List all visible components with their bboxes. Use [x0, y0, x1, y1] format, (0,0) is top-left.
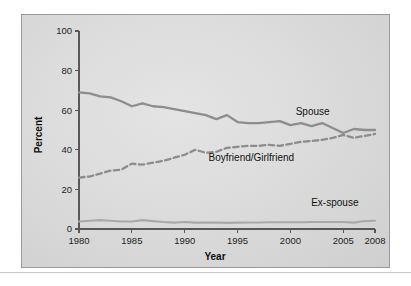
series-label-spouse: Spouse — [296, 106, 330, 117]
series-line-ex-spouse — [79, 220, 375, 223]
series-label-boyfriend-girlfriend: Boyfriend/Girlfriend — [209, 152, 295, 163]
x-tick-label: 1980 — [68, 235, 89, 246]
x-tick-label: 1985 — [121, 235, 142, 246]
x-tick-label: 1990 — [174, 235, 195, 246]
page-divider-rule — [0, 272, 411, 273]
series-line-spouse — [79, 92, 375, 133]
figure-frame: 0204060801001980198519901995200020052008… — [21, 14, 390, 268]
y-tick-label: 40 — [61, 144, 72, 155]
x-tick-label: 2005 — [333, 235, 354, 246]
y-tick-label: 80 — [61, 65, 72, 76]
y-tick-label: 100 — [56, 25, 72, 36]
series-label-ex-spouse: Ex-spouse — [311, 197, 359, 208]
x-tick-label: 1995 — [227, 235, 248, 246]
chart-page: 0204060801001980198519901995200020052008… — [0, 0, 411, 286]
axes-group: 0204060801001980198519901995200020052008 — [56, 25, 385, 246]
x-tick-label: 2000 — [280, 235, 301, 246]
y-axis-title: Percent — [33, 116, 44, 153]
line-chart: 0204060801001980198519901995200020052008… — [22, 15, 391, 269]
x-tick-label: 2008 — [364, 235, 385, 246]
y-tick-label: 20 — [61, 184, 72, 195]
x-axis-title: Year — [204, 251, 225, 262]
figure-plate: 0204060801001980198519901995200020052008… — [22, 15, 389, 267]
y-tick-label: 60 — [61, 105, 72, 116]
y-tick-label: 0 — [67, 223, 72, 234]
